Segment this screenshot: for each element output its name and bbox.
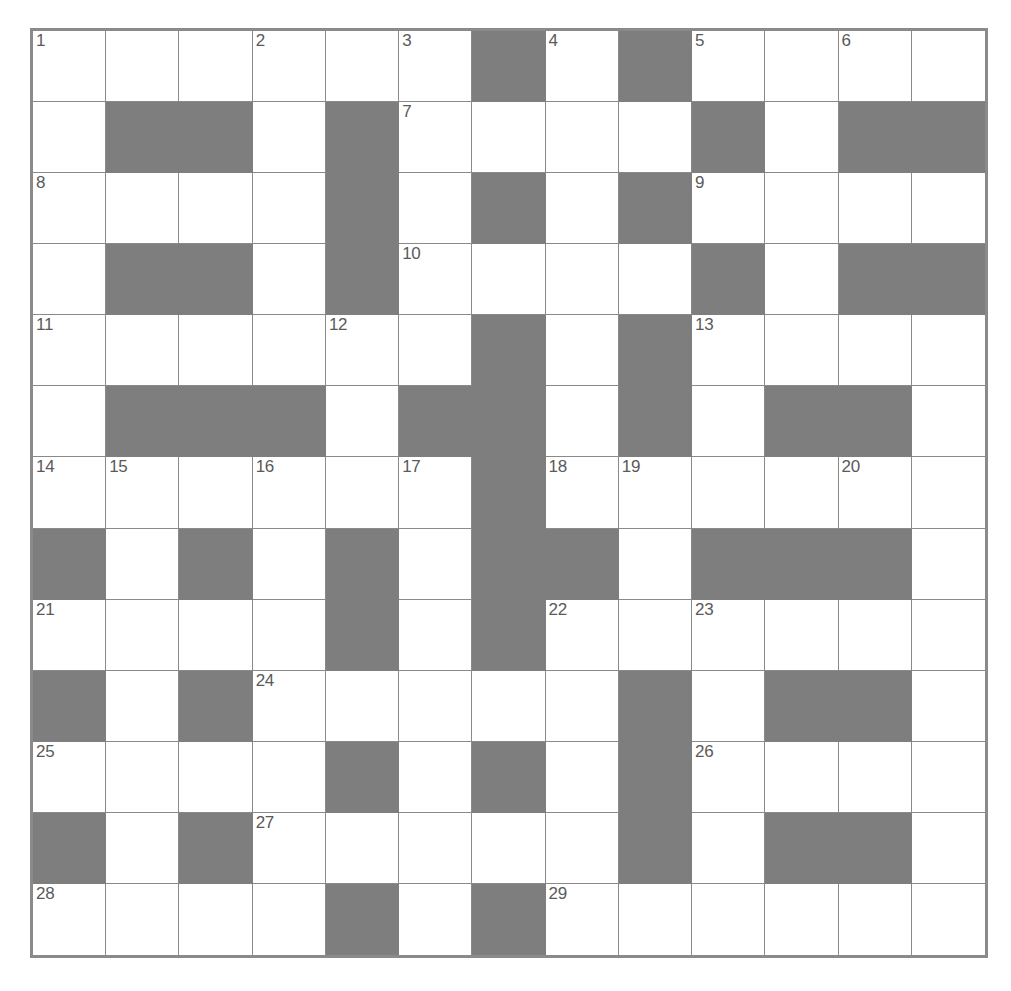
crossword-cell-r1-c8[interactable]: 4 [546, 31, 619, 102]
crossword-cell-r2-c4[interactable] [253, 102, 326, 173]
crossword-cell-r5-c1[interactable]: 11 [33, 315, 106, 386]
crossword-cell-r9-c10[interactable]: 23 [692, 600, 765, 671]
crossword-cell-r11-c12[interactable] [839, 742, 912, 813]
crossword-cell-r5-c11[interactable] [765, 315, 838, 386]
crossword-cell-r4-c7[interactable] [472, 244, 545, 315]
crossword-cell-r2-c9[interactable] [619, 102, 692, 173]
crossword-cell-r2-c7[interactable] [472, 102, 545, 173]
crossword-cell-r13-c8[interactable]: 29 [546, 884, 619, 955]
crossword-cell-r5-c8[interactable] [546, 315, 619, 386]
crossword-cell-r7-c8[interactable]: 18 [546, 457, 619, 528]
crossword-cell-r10-c2[interactable] [106, 671, 179, 742]
crossword-cell-r6-c13[interactable] [912, 386, 985, 457]
crossword-cell-r12-c5[interactable] [326, 813, 399, 884]
crossword-cell-r9-c2[interactable] [106, 600, 179, 671]
crossword-cell-r3-c6[interactable] [399, 173, 472, 244]
crossword-cell-r12-c10[interactable] [692, 813, 765, 884]
crossword-cell-r5-c3[interactable] [179, 315, 252, 386]
crossword-cell-r7-c11[interactable] [765, 457, 838, 528]
crossword-cell-r13-c13[interactable] [912, 884, 985, 955]
crossword-cell-r3-c12[interactable] [839, 173, 912, 244]
crossword-cell-r8-c6[interactable] [399, 529, 472, 600]
crossword-cell-r12-c8[interactable] [546, 813, 619, 884]
crossword-cell-r1-c5[interactable] [326, 31, 399, 102]
crossword-cell-r7-c13[interactable] [912, 457, 985, 528]
crossword-cell-r4-c4[interactable] [253, 244, 326, 315]
crossword-cell-r3-c13[interactable] [912, 173, 985, 244]
crossword-cell-r1-c6[interactable]: 3 [399, 31, 472, 102]
crossword-cell-r9-c13[interactable] [912, 600, 985, 671]
crossword-cell-r13-c1[interactable]: 28 [33, 884, 106, 955]
crossword-cell-r1-c11[interactable] [765, 31, 838, 102]
crossword-cell-r11-c1[interactable]: 25 [33, 742, 106, 813]
crossword-cell-r5-c10[interactable]: 13 [692, 315, 765, 386]
crossword-cell-r5-c4[interactable] [253, 315, 326, 386]
crossword-cell-r3-c4[interactable] [253, 173, 326, 244]
crossword-cell-r6-c1[interactable] [33, 386, 106, 457]
crossword-cell-r8-c2[interactable] [106, 529, 179, 600]
crossword-cell-r1-c4[interactable]: 2 [253, 31, 326, 102]
crossword-cell-r13-c2[interactable] [106, 884, 179, 955]
crossword-cell-r7-c10[interactable] [692, 457, 765, 528]
crossword-cell-r5-c12[interactable] [839, 315, 912, 386]
crossword-cell-r4-c8[interactable] [546, 244, 619, 315]
crossword-cell-r7-c4[interactable]: 16 [253, 457, 326, 528]
crossword-cell-r11-c4[interactable] [253, 742, 326, 813]
crossword-cell-r5-c5[interactable]: 12 [326, 315, 399, 386]
crossword-cell-r10-c13[interactable] [912, 671, 985, 742]
crossword-cell-r9-c6[interactable] [399, 600, 472, 671]
crossword-cell-r9-c9[interactable] [619, 600, 692, 671]
crossword-cell-r11-c3[interactable] [179, 742, 252, 813]
crossword-cell-r9-c4[interactable] [253, 600, 326, 671]
crossword-cell-r8-c4[interactable] [253, 529, 326, 600]
crossword-cell-r12-c13[interactable] [912, 813, 985, 884]
crossword-cell-r7-c2[interactable]: 15 [106, 457, 179, 528]
crossword-cell-r9-c8[interactable]: 22 [546, 600, 619, 671]
crossword-cell-r11-c11[interactable] [765, 742, 838, 813]
crossword-cell-r11-c6[interactable] [399, 742, 472, 813]
crossword-cell-r3-c2[interactable] [106, 173, 179, 244]
crossword-cell-r1-c12[interactable]: 6 [839, 31, 912, 102]
crossword-cell-r3-c11[interactable] [765, 173, 838, 244]
crossword-cell-r12-c4[interactable]: 27 [253, 813, 326, 884]
crossword-cell-r8-c13[interactable] [912, 529, 985, 600]
crossword-cell-r11-c8[interactable] [546, 742, 619, 813]
crossword-grid[interactable]: 1234567891011121314151617181920212223242… [30, 28, 988, 958]
crossword-cell-r13-c11[interactable] [765, 884, 838, 955]
crossword-cell-r12-c2[interactable] [106, 813, 179, 884]
crossword-cell-r10-c8[interactable] [546, 671, 619, 742]
crossword-cell-r11-c10[interactable]: 26 [692, 742, 765, 813]
crossword-cell-r8-c9[interactable] [619, 529, 692, 600]
crossword-cell-r11-c13[interactable] [912, 742, 985, 813]
crossword-cell-r5-c6[interactable] [399, 315, 472, 386]
crossword-cell-r4-c9[interactable] [619, 244, 692, 315]
crossword-cell-r13-c9[interactable] [619, 884, 692, 955]
crossword-cell-r3-c3[interactable] [179, 173, 252, 244]
crossword-cell-r1-c10[interactable]: 5 [692, 31, 765, 102]
crossword-cell-r9-c12[interactable] [839, 600, 912, 671]
crossword-cell-r13-c3[interactable] [179, 884, 252, 955]
crossword-cell-r2-c11[interactable] [765, 102, 838, 173]
crossword-cell-r12-c6[interactable] [399, 813, 472, 884]
crossword-cell-r7-c9[interactable]: 19 [619, 457, 692, 528]
crossword-cell-r10-c5[interactable] [326, 671, 399, 742]
crossword-cell-r4-c11[interactable] [765, 244, 838, 315]
crossword-cell-r11-c2[interactable] [106, 742, 179, 813]
crossword-cell-r10-c7[interactable] [472, 671, 545, 742]
crossword-cell-r7-c5[interactable] [326, 457, 399, 528]
crossword-cell-r13-c6[interactable] [399, 884, 472, 955]
crossword-cell-r9-c11[interactable] [765, 600, 838, 671]
crossword-cell-r5-c13[interactable] [912, 315, 985, 386]
crossword-cell-r13-c4[interactable] [253, 884, 326, 955]
crossword-cell-r2-c1[interactable] [33, 102, 106, 173]
crossword-cell-r7-c1[interactable]: 14 [33, 457, 106, 528]
crossword-cell-r6-c10[interactable] [692, 386, 765, 457]
crossword-cell-r7-c12[interactable]: 20 [839, 457, 912, 528]
crossword-cell-r3-c8[interactable] [546, 173, 619, 244]
crossword-cell-r3-c1[interactable]: 8 [33, 173, 106, 244]
crossword-cell-r4-c6[interactable]: 10 [399, 244, 472, 315]
crossword-cell-r7-c3[interactable] [179, 457, 252, 528]
crossword-cell-r6-c8[interactable] [546, 386, 619, 457]
crossword-cell-r10-c6[interactable] [399, 671, 472, 742]
crossword-cell-r1-c1[interactable]: 1 [33, 31, 106, 102]
